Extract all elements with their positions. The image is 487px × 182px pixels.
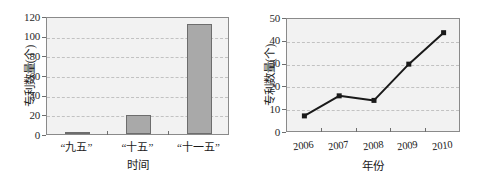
- y-tick-mark: [42, 17, 46, 18]
- bar: [126, 115, 150, 134]
- y-tick-mark: [282, 18, 286, 19]
- y-tick-mark: [42, 135, 46, 136]
- data-point-marker: [302, 113, 307, 118]
- x-tick-mark: [107, 131, 108, 135]
- line-path: [304, 33, 443, 116]
- y-tick-mark: [42, 96, 46, 97]
- y-tick-label: 40: [0, 90, 40, 101]
- x-tick-mark: [390, 128, 391, 132]
- x-tick-mark: [356, 128, 357, 132]
- data-point-marker: [406, 62, 411, 67]
- data-point-marker: [372, 98, 377, 103]
- x-tick-label: 2009: [390, 138, 426, 154]
- y-tick-mark: [282, 41, 286, 42]
- bar-chart-plot-area: [46, 17, 229, 135]
- x-tick-mark: [321, 128, 322, 132]
- y-tick-mark: [42, 56, 46, 57]
- line-chart-panel: 专利数量(个) 01020304050 20062007200820092010…: [244, 0, 487, 182]
- y-tick-label: 0: [0, 130, 40, 141]
- y-tick-label: 80: [0, 51, 40, 62]
- x-tick-label: “十一五”: [168, 141, 229, 153]
- bar-chart-x-axis-title: 时间: [46, 159, 229, 171]
- y-tick-mark: [282, 109, 286, 110]
- x-tick-label: “九五”: [46, 141, 107, 153]
- y-tick-label: 10: [244, 104, 280, 115]
- data-point-marker: [441, 30, 446, 35]
- x-tick-label: “十五”: [107, 141, 168, 153]
- bar: [187, 24, 211, 134]
- x-tick-mark: [425, 128, 426, 132]
- y-tick-label: 0: [244, 127, 280, 138]
- x-tick-label: 2006: [285, 138, 321, 154]
- y-tick-label: 120: [0, 12, 40, 23]
- line-chart-series: [287, 19, 461, 133]
- figure-container: 专利数量(个) 020406080100120 “九五”“十五”“十一五” 时间…: [0, 0, 487, 182]
- x-tick-mark: [168, 131, 169, 135]
- x-tick-label: 2010: [425, 138, 461, 154]
- line-chart-plot-area: [286, 18, 460, 132]
- y-tick-label: 50: [244, 13, 280, 24]
- y-tick-mark: [42, 37, 46, 38]
- y-tick-label: 60: [0, 71, 40, 82]
- x-tick-label: 2008: [355, 138, 391, 154]
- bar-chart-panel: 专利数量(个) 020406080100120 “九五”“十五”“十一五” 时间: [0, 0, 244, 182]
- line-chart-x-axis-title: 年份: [286, 160, 460, 172]
- data-point-marker: [337, 93, 342, 98]
- y-tick-label: 100: [0, 31, 40, 42]
- y-tick-mark: [282, 86, 286, 87]
- x-tick-label: 2007: [320, 138, 356, 154]
- y-tick-label: 20: [244, 81, 280, 92]
- bar: [65, 132, 89, 134]
- y-tick-mark: [42, 76, 46, 77]
- y-tick-label: 40: [244, 35, 280, 46]
- y-tick-mark: [282, 64, 286, 65]
- y-tick-label: 20: [0, 110, 40, 121]
- y-tick-label: 30: [244, 58, 280, 69]
- y-tick-mark: [42, 115, 46, 116]
- y-tick-mark: [282, 132, 286, 133]
